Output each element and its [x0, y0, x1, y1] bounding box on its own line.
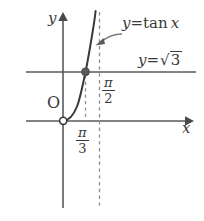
- curve-equation-eq: =: [130, 14, 143, 32]
- callout-arrowhead: [96, 38, 106, 46]
- hline-equation-label: y=√3: [138, 51, 182, 68]
- tan-curve: [63, 11, 95, 121]
- y-axis-arrowhead: [58, 12, 68, 21]
- curve-equation-fn: tan: [143, 14, 168, 32]
- sqrt-radical-icon: √3: [159, 51, 182, 68]
- fraction-pi-over-3: π 3: [76, 126, 89, 155]
- hline-equation-eq: =: [146, 51, 159, 69]
- y-axis-label: y: [48, 11, 56, 26]
- tick-label-pi-over-2: π 2: [102, 76, 115, 105]
- curve-equation-label: y=tanx: [122, 16, 179, 31]
- curve-equation-var: x: [171, 14, 179, 32]
- origin-open-point: [60, 117, 67, 124]
- origin-label: O: [47, 95, 60, 111]
- fraction-denominator: 3: [76, 141, 89, 155]
- graph-canvas: [0, 0, 204, 221]
- fraction-pi-over-2: π 2: [102, 76, 115, 105]
- hline-equation-radicand: 3: [170, 51, 183, 68]
- x-axis-label: x: [182, 121, 190, 136]
- tick-label-pi-over-3: π 3: [76, 126, 89, 155]
- fraction-numerator: π: [76, 126, 89, 141]
- fraction-denominator: 2: [102, 91, 115, 105]
- math-graph-figure: y x O y=tanx y=√3 π 2 π 3: [0, 0, 204, 221]
- fraction-numerator: π: [102, 76, 115, 91]
- intersection-filled-point: [82, 68, 90, 76]
